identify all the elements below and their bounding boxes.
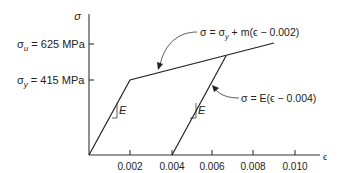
leader-unloading <box>215 89 239 98</box>
slope-label-e-1: E <box>119 104 127 116</box>
x-axis-label: ϵ <box>323 152 327 162</box>
x-tick-label-0.006: 0.006 <box>199 161 224 172</box>
unloading-equation: σ = E(ϵ − 0.004) <box>241 92 316 104</box>
x-tick-label-0.010: 0.010 <box>282 161 307 172</box>
sigma-y-label: σy = 415 MPa <box>17 74 85 89</box>
x-tick-label-0.002: 0.002 <box>117 161 142 172</box>
y-axis-label: σ <box>74 10 81 22</box>
x-tick-label-0.008: 0.008 <box>240 161 265 172</box>
leader-hardening <box>160 32 197 65</box>
stress-strain-diagram: σ σu = 625 MPa σy = 415 MPa E E σ = σy +… <box>0 0 340 173</box>
arrow-head-unloading <box>212 85 219 92</box>
slope-label-e-2: E <box>198 104 206 116</box>
arrow-head-hardening <box>157 62 163 70</box>
hardening-equation: σ = σy + m(ϵ − 0.002) <box>200 26 299 41</box>
x-tick-label-0.004: 0.004 <box>159 161 184 172</box>
sigma-u-label: σu = 625 MPa <box>17 38 86 53</box>
